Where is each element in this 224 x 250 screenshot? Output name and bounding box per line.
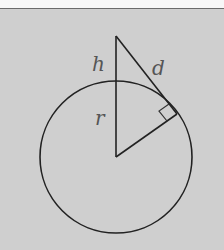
- tangent-segment-d: [116, 36, 177, 114]
- label-h: h: [92, 52, 105, 76]
- right-angle-marker: [159, 104, 169, 121]
- label-r: r: [95, 106, 106, 130]
- geometry-diagram: h d r: [0, 0, 224, 250]
- radius-to-tangent: [116, 114, 177, 157]
- label-d: d: [152, 56, 165, 80]
